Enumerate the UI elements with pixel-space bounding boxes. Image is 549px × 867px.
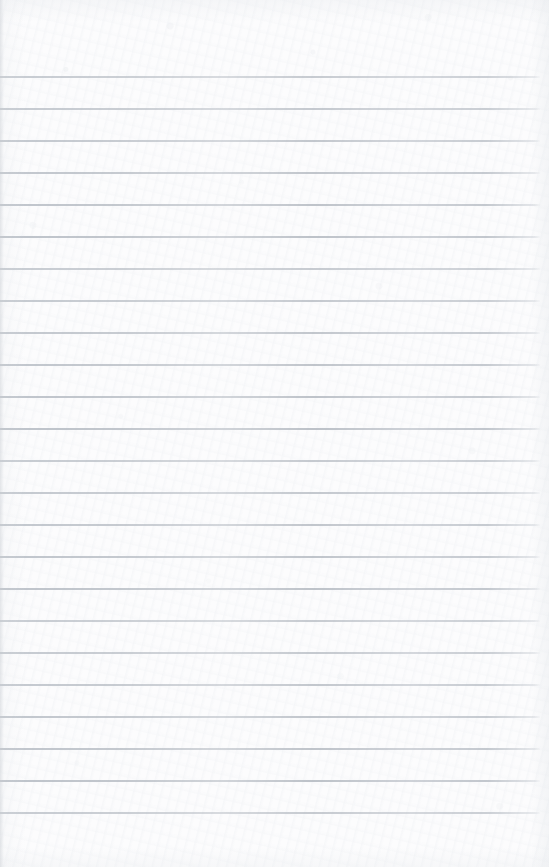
footer-margin — [0, 814, 549, 867]
page-content-area — [0, 76, 540, 814]
header-margin — [0, 0, 549, 76]
notebook-page — [0, 0, 549, 867]
